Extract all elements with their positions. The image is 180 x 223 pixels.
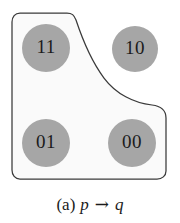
caption-inner: (a) p → q [56, 196, 123, 213]
node-11-label: 11 [36, 36, 55, 57]
figure-caption: (a) p → q [0, 186, 180, 223]
implication-venn-figure: 11 10 01 00 (a) p → q [0, 0, 180, 223]
node-00-label: 00 [122, 131, 142, 152]
node-01: 01 [22, 119, 70, 167]
caption-antecedent: p [80, 196, 89, 213]
caption-consequent: q [115, 196, 124, 213]
node-01-label: 01 [36, 131, 56, 152]
node-11: 11 [22, 24, 70, 72]
node-00: 00 [108, 119, 156, 167]
caption-implication-operator: → [94, 196, 110, 213]
node-10: 10 [112, 26, 158, 72]
caption-tag: (a) [56, 196, 75, 213]
node-10-label: 10 [125, 37, 145, 58]
venn-diagram: 11 10 01 00 [0, 0, 180, 186]
